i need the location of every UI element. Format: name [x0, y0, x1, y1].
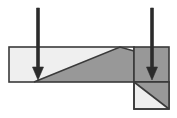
load-arrow-left	[33, 8, 44, 80]
beam-group	[9, 47, 134, 82]
figure-canvas	[0, 0, 177, 118]
shear-failure-figure	[0, 0, 177, 118]
support-lower-group	[134, 82, 169, 109]
load-arrow-right	[147, 8, 158, 80]
